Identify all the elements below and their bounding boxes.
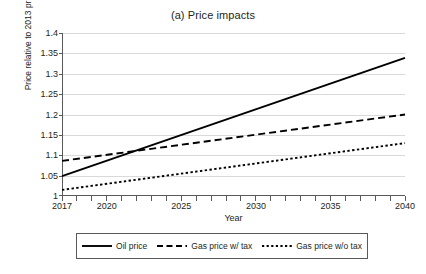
legend-label: Gas price w/ tax — [191, 241, 252, 251]
x-tick-label: 2030 — [236, 201, 276, 211]
x-tick-label: 2025 — [161, 201, 201, 211]
legend-item-gas-price-with-tax: Gas price w/ tax — [157, 241, 252, 251]
x-tick-label: 2035 — [310, 201, 350, 211]
x-tick-label: 2017 — [42, 201, 82, 211]
series-line-gas-price-with-tax — [62, 115, 405, 161]
y-tick-label: 1.2 — [18, 111, 58, 120]
x-tick-label: 2040 — [385, 201, 425, 211]
y-tick-label: 1.4 — [18, 29, 58, 38]
chart-title: (a) Price impacts — [0, 9, 426, 21]
legend-item-gas-price-without-tax: Gas price w/o tax — [262, 241, 362, 251]
legend-label: Oil price — [116, 241, 147, 251]
y-axis-tick-labels: 1.4 1.35 1.3 1.25 1.2 1.15 1.1 1.05 1 — [14, 33, 58, 196]
plot-area — [62, 33, 405, 196]
legend-item-oil-price: Oil price — [82, 241, 147, 251]
y-axis-ticks — [59, 34, 62, 196]
legend-label: Gas price w/o tax — [296, 241, 362, 251]
legend-swatch-solid-icon — [82, 242, 112, 250]
y-tick-label: 1.35 — [18, 49, 58, 58]
y-tick-label: 1.3 — [18, 70, 58, 79]
x-axis-ticks — [62, 196, 405, 201]
price-impacts-chart-figure: (a) Price impacts Price relative to 2013… — [0, 0, 426, 274]
y-tick-label: 1.1 — [18, 151, 58, 160]
y-tick-label: 1 — [18, 192, 58, 201]
y-tick-label: 1.15 — [18, 131, 58, 140]
x-tick-label: 2020 — [87, 201, 127, 211]
chart-legend: Oil price Gas price w/ tax Gas price w/o… — [76, 233, 368, 259]
gridlines — [62, 34, 405, 177]
legend-swatch-dotted-icon — [262, 242, 292, 250]
x-axis-title: Year — [62, 213, 405, 223]
legend-swatch-dashed-icon — [157, 242, 187, 250]
plot-svg — [62, 33, 405, 196]
series-line-oil-price — [62, 58, 405, 176]
y-tick-label: 1.05 — [18, 172, 58, 181]
y-tick-label: 1.25 — [18, 90, 58, 99]
series-line-gas-price-without-tax — [62, 143, 405, 190]
